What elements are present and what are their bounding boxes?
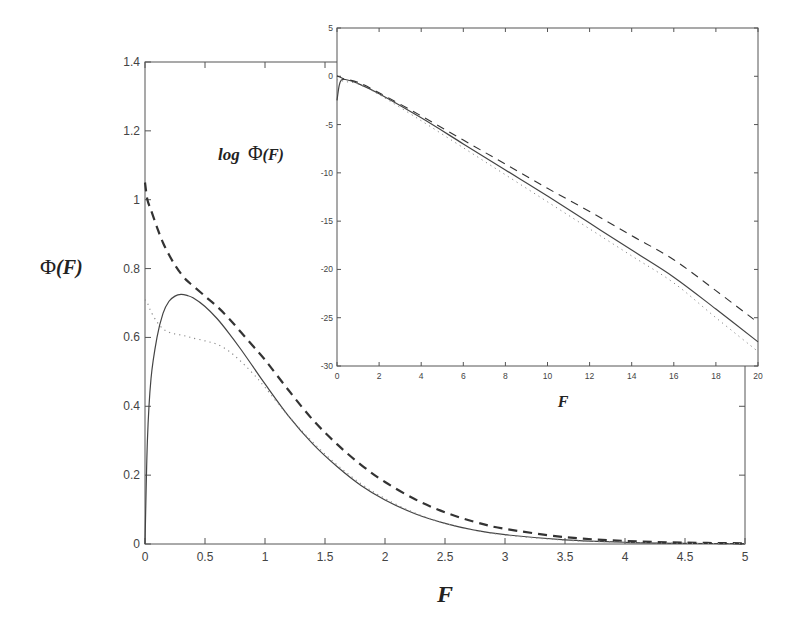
x-tick-label: 5 xyxy=(742,550,749,564)
y-tick-label: -25 xyxy=(321,313,334,323)
phi-symbol: Φ xyxy=(40,254,56,279)
x-tick-label: 6 xyxy=(461,371,466,381)
y-tick-label: -20 xyxy=(321,264,334,274)
y-tick-label: 1.2 xyxy=(123,124,140,138)
y-tick-label: 0 xyxy=(328,71,333,81)
x-tick-label: 1 xyxy=(262,550,269,564)
y-tick-label: -30 xyxy=(321,361,334,371)
y-tick-label: 0 xyxy=(133,537,140,551)
x-tick-label: 0 xyxy=(142,550,149,564)
inset-y-axis-label: log Φ(F) xyxy=(218,142,284,164)
x-tick-label: 2.5 xyxy=(437,550,454,564)
x-tick-label: 3 xyxy=(502,550,509,564)
x-tick-label: 2 xyxy=(377,371,382,381)
x-tick-label: 14 xyxy=(627,371,637,381)
inset-plot-background xyxy=(337,28,758,366)
x-tick-label: 0.5 xyxy=(197,550,214,564)
x-tick-label: 0 xyxy=(335,371,340,381)
inset-plot: 02468101214161820 50-5-10-15-20-25-30 F xyxy=(321,23,763,410)
x-tick-label: 1.5 xyxy=(317,550,334,564)
main-x-axis-label: F xyxy=(436,581,453,607)
y-tick-label: 0.6 xyxy=(123,330,140,344)
x-tick-label: 18 xyxy=(711,371,721,381)
x-tick-label: 3.5 xyxy=(557,550,574,564)
x-tick-label: 8 xyxy=(503,371,508,381)
inset-x-axis-label: F xyxy=(557,393,569,410)
y-tick-label: 0.2 xyxy=(123,468,140,482)
x-tick-label: 20 xyxy=(753,371,763,381)
x-tick-label: 4 xyxy=(419,371,424,381)
x-tick-label: 4 xyxy=(622,550,629,564)
y-tick-label: -10 xyxy=(321,168,334,178)
x-tick-label: 2 xyxy=(382,550,389,564)
x-tick-label: 12 xyxy=(585,371,595,381)
y-tick-label: 0.4 xyxy=(123,399,140,413)
x-tick-label: 16 xyxy=(669,371,679,381)
y-tick-label: 1.4 xyxy=(123,55,140,69)
main-y-axis-label: Φ(F) xyxy=(40,254,83,279)
y-tick-label: 5 xyxy=(328,23,333,33)
y-tick-label: -5 xyxy=(325,120,333,130)
chart-canvas: 00.511.522.533.544.55 00.20.40.60.811.21… xyxy=(0,0,795,630)
x-tick-label: 4.5 xyxy=(677,550,694,564)
y-tick-label: -15 xyxy=(321,216,334,226)
y-tick-label: 1 xyxy=(133,193,140,207)
y-tick-label: 0.8 xyxy=(123,262,140,276)
x-tick-label: 10 xyxy=(543,371,553,381)
